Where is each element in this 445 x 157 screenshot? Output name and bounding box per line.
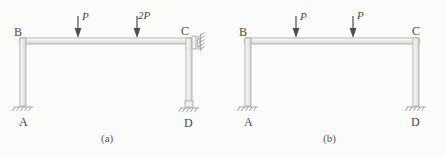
frame-diagram-b: B C A D P P (b) bbox=[223, 0, 445, 157]
node-label-A: A bbox=[19, 116, 28, 128]
load-arrow-p bbox=[75, 16, 82, 38]
load-label-p: P bbox=[82, 11, 89, 22]
caption-b: (b) bbox=[323, 133, 336, 144]
column-AB bbox=[20, 38, 26, 106]
node-label-B: B bbox=[239, 26, 247, 38]
load-arrow-p-left bbox=[293, 16, 300, 38]
load-arrow-p-right bbox=[350, 16, 357, 38]
node-label-C: C bbox=[181, 25, 189, 37]
load-label-2p: 2P bbox=[138, 10, 150, 21]
support-D-fixed bbox=[179, 101, 200, 112]
support-A-fixed bbox=[13, 107, 34, 111]
node-label-D: D bbox=[411, 116, 420, 128]
beam-BC bbox=[245, 38, 419, 44]
load-label-p-right: P bbox=[357, 10, 364, 21]
node-label-D: D bbox=[184, 117, 193, 129]
node-label-C: C bbox=[412, 25, 420, 37]
load-label-p-left: P bbox=[300, 11, 307, 22]
support-C-roller bbox=[192, 33, 205, 51]
caption-a: (a) bbox=[101, 133, 113, 144]
column-AB bbox=[245, 38, 251, 106]
node-label-A: A bbox=[244, 116, 253, 128]
beam-BC bbox=[20, 38, 192, 44]
support-A-fixed bbox=[238, 107, 259, 111]
column-CD bbox=[413, 38, 419, 106]
support-D-fixed bbox=[406, 107, 427, 111]
figure-container: B C A D P 2P (a) bbox=[0, 0, 445, 157]
node-label-B: B bbox=[14, 26, 22, 38]
column-CD bbox=[186, 38, 192, 106]
frame-diagram-a: B C A D P 2P (a) bbox=[0, 0, 222, 157]
